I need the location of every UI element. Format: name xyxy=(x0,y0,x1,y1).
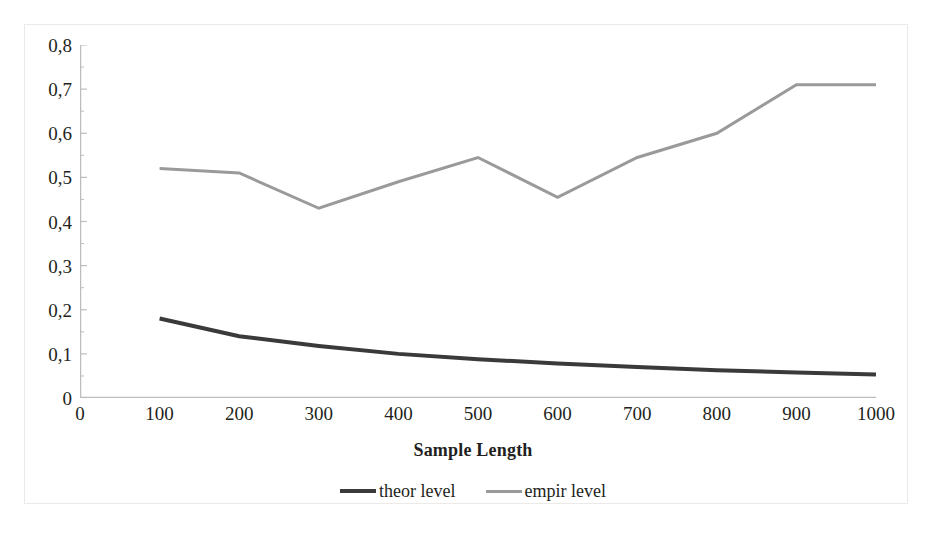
y-axis-tick-label: 0,5 xyxy=(12,168,72,187)
y-axis-tick-label: 0,8 xyxy=(12,36,72,55)
legend-swatch-empir-icon xyxy=(486,490,522,493)
x-axis-tick-label: 1000 xyxy=(857,404,895,423)
x-axis-tick-label: 500 xyxy=(464,404,493,423)
chart-figure: 00,10,20,30,40,50,60,70,8 01002003004005… xyxy=(0,0,946,550)
x-axis-tick-label: 700 xyxy=(623,404,652,423)
x-axis-tick-label: 100 xyxy=(145,404,174,423)
y-axis-tick-label: 0,1 xyxy=(12,344,72,363)
legend-item-empir: empir level xyxy=(486,482,606,500)
legend-label-empir: empir level xyxy=(525,482,606,500)
plot-area xyxy=(80,45,876,398)
y-axis-tick-label: 0,3 xyxy=(12,256,72,275)
y-axis-tick-label: 0,7 xyxy=(12,80,72,99)
x-axis-labels: 01002003004005006007008009001000 xyxy=(0,404,946,434)
x-axis-tick-label: 200 xyxy=(225,404,254,423)
legend-swatch-theor-icon xyxy=(340,489,376,493)
y-axis-labels: 00,10,20,30,40,50,60,70,8 xyxy=(6,0,72,550)
series-line-empir-level xyxy=(160,85,876,209)
legend-label-theor: theor level xyxy=(379,482,455,500)
series-line-theor-level xyxy=(160,319,876,375)
x-axis-tick-label: 800 xyxy=(703,404,732,423)
y-axis-tick-label: 0,4 xyxy=(12,212,72,231)
x-axis-tick-label: 300 xyxy=(305,404,334,423)
x-axis-tick-label: 0 xyxy=(75,404,85,423)
y-axis-tick-label: 0,2 xyxy=(12,300,72,319)
x-axis-tick-label: 400 xyxy=(384,404,413,423)
y-axis-tick-label: 0,6 xyxy=(12,124,72,143)
chart-canvas xyxy=(80,45,876,398)
x-axis-tick-label: 900 xyxy=(782,404,811,423)
x-axis-tick-label: 600 xyxy=(543,404,572,423)
x-axis-title: Sample Length xyxy=(0,440,946,461)
legend-item-theor: theor level xyxy=(340,482,455,500)
chart-legend: theor level empir level xyxy=(0,482,946,500)
